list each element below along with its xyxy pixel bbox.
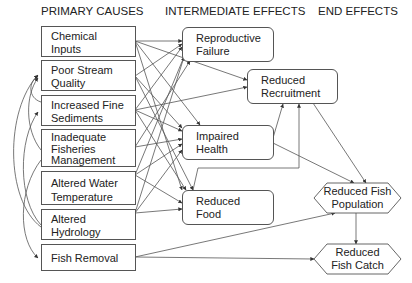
node-label-line: Chemical <box>51 30 135 43</box>
node-label-line: Reduced <box>261 74 337 87</box>
node-label-line: Fish Removal <box>51 252 135 265</box>
node-inadequate-fisheries-management: Inadequate Fisheries Management <box>41 129 136 167</box>
node-label-line: Inadequate <box>51 132 135 144</box>
node-label-line: Altered Water <box>51 176 135 190</box>
node-altered-water-temperature: Altered Water Temperature <box>41 171 136 205</box>
node-label-line: Hydrology <box>51 226 135 239</box>
node-label-line: Management <box>51 155 135 167</box>
node-label-line: Food <box>196 208 273 221</box>
node-label-line: Reproductive <box>196 32 273 45</box>
edge-fr-rfc <box>135 257 314 259</box>
edge-ah-psq <box>14 75 41 227</box>
node-increased-fine-sediments: Increased Fine Sediments <box>41 95 136 126</box>
edge-ih-rr <box>273 104 283 138</box>
header-intermediate-effects: INTERMEDIATE EFFECTS <box>165 5 305 17</box>
edge-awt-rfood <box>135 175 182 203</box>
node-label-line: Poor Stream <box>51 64 135 77</box>
node-label-line: Inputs <box>51 43 135 56</box>
node-label-line: Reduced <box>314 246 401 259</box>
node-reduced-food: Reduced Food <box>182 190 274 225</box>
node-altered-hydrology: Altered Hydrology <box>41 209 136 240</box>
edge-ih-rfp <box>273 143 354 183</box>
edge-ifm-ih <box>135 139 182 147</box>
header-primary-causes: PRIMARY CAUSES <box>41 5 143 17</box>
node-label-line: Recruitment <box>261 87 337 100</box>
node-label-line: Reduced Fish <box>314 185 401 198</box>
edge-ifs-rr <box>135 87 247 110</box>
node-reduced-fish-population: Reduced Fish Population <box>314 185 401 211</box>
node-label-line: Sediments <box>51 112 135 125</box>
node-reduced-fish-catch: Reduced Fish Catch <box>314 246 401 272</box>
node-poor-stream-quality: Poor Stream Quality <box>41 60 136 91</box>
edge-ah-rfood <box>135 209 182 213</box>
edge-chem-rfood <box>135 41 182 190</box>
node-reproductive-failure: Reproductive Failure <box>182 27 274 62</box>
node-label-line: Reduced <box>196 195 273 208</box>
node-label-line: Altered <box>51 213 135 226</box>
node-chemical-inputs: Chemical Inputs <box>41 26 136 57</box>
node-label-line: Increased Fine <box>51 99 135 112</box>
header-end-effects: END EFFECTS <box>318 5 398 17</box>
node-label-line: Quality <box>51 77 135 90</box>
node-impaired-health: Impaired Health <box>182 125 274 160</box>
node-label-line: Failure <box>196 45 273 58</box>
edge-rr-rfp <box>313 103 366 183</box>
node-label-line: Fish Catch <box>314 259 401 272</box>
node-label-line: Population <box>314 198 401 211</box>
node-reduced-recruitment: Reduced Recruitment <box>247 69 338 104</box>
node-label-line: Impaired <box>196 130 273 143</box>
node-label-line: Health <box>196 143 273 156</box>
node-fish-removal: Fish Removal <box>41 244 136 271</box>
node-label-line: Temperature <box>51 190 135 204</box>
